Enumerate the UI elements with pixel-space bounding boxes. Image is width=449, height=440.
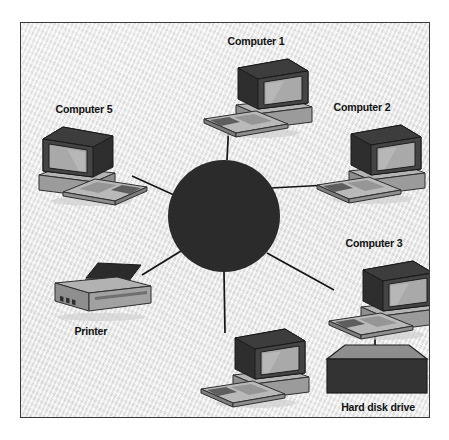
printer-button-3: [72, 299, 76, 305]
computer-icon: [196, 51, 316, 143]
label-computer-2: Computer 2: [333, 101, 390, 113]
computer-icon: [321, 253, 430, 345]
hdd-front-face: [327, 359, 427, 393]
node-computer-1[interactable]: Computer 1: [196, 35, 316, 141]
device-layer: Computer 1: [21, 23, 429, 417]
label-printer: Printer: [74, 325, 107, 337]
label-computer-4: Computer 4: [225, 415, 282, 418]
printer-button-1: [60, 296, 64, 302]
computer-icon: [35, 119, 155, 211]
label-hard-disk-drive: Hard disk drive: [341, 401, 415, 413]
label-computer-5: Computer 5: [55, 103, 112, 115]
printer-icon: [43, 261, 163, 323]
node-computer-5[interactable]: Computer 5: [35, 103, 157, 211]
computer-icon: [193, 321, 313, 413]
node-hard-disk-drive[interactable]: Hard disk drive: [317, 343, 430, 418]
diagram-frame: Computer 1: [20, 22, 430, 418]
node-computer-3[interactable]: Computer 3: [321, 237, 430, 343]
node-printer[interactable]: Printer: [43, 261, 163, 347]
hdd-top-face: [327, 345, 427, 359]
computer-icon: [309, 117, 429, 209]
printer-button-2: [66, 298, 70, 304]
hard-disk-drive-icon: [321, 343, 430, 399]
node-computer-4[interactable]: Computer 4: [193, 321, 313, 418]
network-diagram-figure: Computer 1: [0, 0, 449, 440]
node-computer-2[interactable]: Computer 2: [309, 101, 429, 207]
label-computer-3: Computer 3: [345, 237, 402, 249]
label-computer-1: Computer 1: [228, 35, 285, 47]
